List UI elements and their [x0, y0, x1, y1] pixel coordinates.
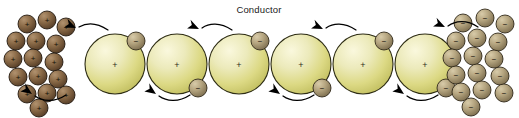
electron-particle-sign: − — [459, 88, 464, 97]
negative-charge-cluster: −−−−−−−−−−−−−−−− — [443, 9, 514, 116]
electron-particle: − — [489, 33, 507, 51]
arrow-head — [187, 20, 202, 34]
electron-particle: − — [447, 32, 465, 50]
proton-particle-sign: + — [52, 58, 57, 67]
arrow-head — [311, 20, 326, 34]
conduction-electron-sign: − — [134, 37, 139, 46]
electron-particle: − — [495, 84, 513, 102]
electron-particle: − — [473, 81, 491, 99]
proton-particle: + — [7, 32, 25, 50]
conduction-electron: − — [375, 32, 393, 50]
conductor-atom-sign: + — [112, 60, 117, 70]
electron-particle: − — [462, 98, 480, 116]
electron-particle-sign: − — [450, 54, 455, 63]
electron-particle-sign: − — [498, 72, 503, 81]
arrow-shaft — [79, 24, 108, 30]
electron-particle-sign: − — [480, 86, 485, 95]
proton-particle: + — [38, 11, 56, 29]
conduction-electron: − — [127, 32, 145, 50]
proton-particle: + — [18, 15, 36, 33]
electron-particle-sign: − — [502, 89, 507, 98]
electron-particle: − — [485, 50, 503, 68]
proton-particle: + — [45, 53, 63, 71]
electron-particle: − — [443, 49, 461, 67]
electron-flow-arrow — [311, 20, 356, 34]
electron-particle-sign: − — [454, 71, 459, 80]
proton-particle: + — [4, 50, 22, 68]
proton-particle-sign: + — [54, 40, 59, 49]
positive-charge-cluster: ++++++++++++++++ — [4, 11, 75, 117]
conductor-atom-sign: + — [360, 60, 365, 70]
conductor-charge-flow-diagram: Conductor ++++++++++++++++ ++++++−−−−−− … — [0, 0, 519, 118]
electron-particle-sign: − — [492, 55, 497, 64]
conductor-atom-sign: + — [236, 60, 241, 70]
conductor-atom-sign: + — [298, 60, 303, 70]
proton-particle-sign: + — [25, 20, 30, 29]
conduction-electron: − — [189, 79, 207, 97]
electron-particle-sign: − — [483, 14, 488, 23]
proton-particle: + — [24, 49, 42, 67]
electron-particle-sign: − — [496, 38, 501, 47]
electron-particle: − — [496, 15, 514, 33]
electron-particle-sign: − — [503, 20, 508, 29]
proton-particle-sign: + — [37, 104, 42, 113]
electron-particle-sign: − — [475, 69, 480, 78]
electron-particle-sign: − — [469, 103, 474, 112]
electron-particle: − — [476, 9, 494, 27]
proton-particle-sign: + — [36, 72, 41, 81]
page-title: Conductor — [236, 4, 281, 15]
electron-particle: − — [464, 47, 482, 65]
conduction-electron: − — [251, 32, 269, 50]
electron-particle: − — [491, 67, 509, 85]
proton-particle-sign: + — [31, 54, 36, 63]
conduction-electron: − — [313, 79, 331, 97]
conduction-electron-sign: − — [320, 84, 325, 93]
electron-particle-sign: − — [454, 37, 459, 46]
diagram-canvas: Conductor ++++++++++++++++ ++++++−−−−−− … — [0, 0, 519, 118]
conduction-electron-sign: − — [382, 37, 387, 46]
proton-particle-sign: + — [14, 37, 19, 46]
electron-particle-sign: − — [475, 34, 480, 43]
proton-particle-sign: + — [45, 89, 50, 98]
arrow-shaft — [283, 95, 314, 100]
arrow-shaft — [407, 95, 438, 100]
proton-particle-sign: + — [56, 75, 61, 84]
electron-particle-sign: − — [461, 19, 466, 28]
proton-particle: + — [29, 67, 47, 85]
electron-particle-sign: − — [471, 52, 476, 61]
arrow-shaft — [202, 24, 232, 30]
proton-particle: + — [27, 32, 45, 50]
proton-particle-sign: + — [45, 16, 50, 25]
electron-flow-arrow — [187, 20, 232, 34]
conduction-electron-sign: − — [196, 84, 201, 93]
conduction-electron-sign: − — [444, 84, 449, 93]
conductor-atom-sign: + — [422, 60, 427, 70]
electron-particle: − — [468, 64, 486, 82]
proton-particle: + — [30, 99, 48, 117]
proton-particle-sign: + — [34, 37, 39, 46]
electron-particle: − — [452, 83, 470, 101]
proton-particle: + — [47, 35, 65, 53]
conduction-electron-sign: − — [258, 37, 263, 46]
arrow-shaft — [159, 95, 190, 100]
electron-particle: − — [447, 66, 465, 84]
diagram-title-layer: Conductor — [236, 4, 281, 15]
electron-particle: − — [468, 29, 486, 47]
proton-particle-sign: + — [16, 73, 21, 82]
conductor-atom-sign: + — [174, 60, 179, 70]
arrow-head — [433, 18, 448, 32]
proton-particle: + — [9, 68, 27, 86]
proton-particle-sign: + — [11, 55, 16, 64]
arrow-shaft — [326, 24, 356, 30]
